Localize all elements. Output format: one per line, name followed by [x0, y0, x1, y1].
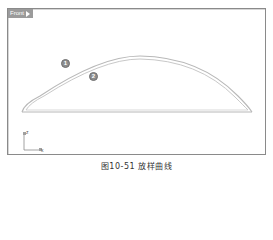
callout-label: 2	[92, 73, 95, 79]
callout-2: 2	[89, 72, 98, 81]
axis-z-label: z	[26, 130, 29, 135]
callout-1: 1	[61, 59, 70, 68]
axis-x-label: x	[41, 148, 44, 153]
loft-curve-outer[interactable]	[22, 56, 252, 112]
callout-label: 1	[64, 60, 67, 66]
figure-caption: 图10-51 放样曲线	[0, 160, 273, 171]
